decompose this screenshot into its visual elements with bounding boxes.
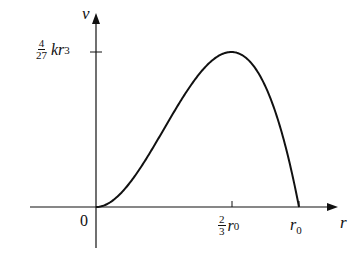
y-max-label: 427 kr3 [36, 38, 70, 61]
r-axis-label: r [340, 213, 347, 233]
xpeak-denominator: 3 [219, 226, 225, 237]
xpeak-sub: 0 [234, 220, 240, 232]
y-axis-arrow-icon [92, 13, 100, 24]
x-axis-arrow-icon [327, 203, 338, 211]
xend-sub: 0 [296, 224, 302, 236]
ymax-var: kr [51, 41, 64, 59]
origin-label: 0 [80, 212, 88, 230]
x-peak-label: 23 r0 [218, 214, 239, 237]
curve [96, 52, 299, 207]
v-axis-label: v [82, 4, 90, 24]
ymax-denominator: 27 [36, 50, 47, 61]
ymax-sup: 3 [64, 44, 70, 56]
x-end-label: r0 [290, 216, 302, 236]
